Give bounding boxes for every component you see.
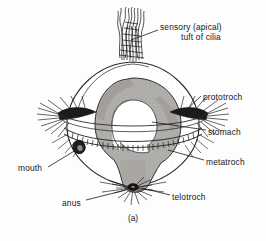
leader-telotroch: [142, 188, 170, 195]
label-stomach: stomach: [208, 127, 241, 137]
label-anus: anus: [62, 198, 81, 208]
figure-trochophore-larva: sensory (apical) tuft of cilia prototroc…: [0, 0, 266, 241]
label-mouth: mouth: [18, 163, 42, 173]
label-sensory-line1: sensory (apical): [160, 22, 222, 32]
figure-caption: (a): [0, 213, 266, 223]
label-sensory-tuft: sensory (apical) tuft of cilia: [160, 22, 256, 42]
label-telotroch: telotroch: [172, 192, 206, 202]
label-prototroch: prototroch: [203, 92, 242, 102]
label-sensory-line2: tuft of cilia: [160, 32, 256, 42]
label-metatroch: metatroch: [206, 157, 245, 167]
leader-mouth: [48, 150, 76, 167]
anus-opening-icon: [128, 184, 138, 191]
